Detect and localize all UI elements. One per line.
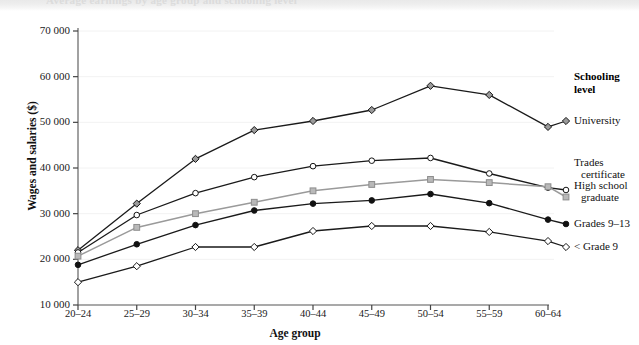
data-point-marker [309, 117, 316, 124]
series-grades-9-13 [75, 191, 569, 267]
data-point-marker [134, 241, 140, 247]
data-point-marker [133, 263, 140, 270]
data-point-marker [544, 123, 551, 130]
data-point-marker [251, 126, 258, 133]
data-point-marker [427, 222, 434, 229]
data-point-marker [486, 200, 492, 206]
data-point-marker [134, 224, 140, 230]
legend-item-label: High school [574, 180, 639, 192]
data-point-marker [486, 180, 492, 186]
chart-figure: Average earnings by age group and school… [0, 0, 639, 345]
data-point-marker [192, 243, 199, 250]
data-point-marker [486, 171, 492, 177]
legend-item: University [574, 115, 639, 127]
data-point-marker [563, 221, 569, 227]
data-point-marker [251, 199, 257, 205]
legend-item-label: University [574, 115, 639, 127]
series-high-school-graduate [75, 177, 569, 260]
legend-item-label: Trades [574, 157, 639, 169]
legend-title-line2: level [574, 83, 636, 96]
data-point-marker [368, 106, 375, 113]
data-point-marker [545, 184, 551, 190]
data-point-marker [251, 208, 257, 214]
legend-item: < Grade 9 [574, 241, 639, 253]
data-point-marker [251, 174, 257, 180]
data-point-marker [369, 198, 375, 204]
data-point-marker [75, 262, 81, 268]
data-point-marker [428, 191, 434, 197]
legend-item: Grades 9–13 [574, 218, 639, 230]
legend-item-label: Grades 9–13 [574, 218, 639, 230]
series-grade-9 [74, 222, 569, 285]
legend-item-label-cont: graduate [574, 192, 639, 204]
legend-item: High schoolgraduate [574, 180, 639, 203]
data-point-marker [563, 194, 569, 200]
data-point-marker [193, 222, 199, 228]
data-point-marker [310, 163, 316, 169]
data-point-marker [428, 155, 434, 161]
data-point-marker [428, 177, 434, 183]
data-point-marker [309, 227, 316, 234]
data-point-marker [74, 279, 81, 286]
data-point-marker [486, 91, 493, 98]
data-point-marker [544, 237, 551, 244]
data-point-marker [563, 187, 569, 193]
data-point-marker [427, 82, 434, 89]
data-point-marker [486, 228, 493, 235]
data-point-marker [310, 188, 316, 194]
plot-canvas [0, 0, 639, 345]
data-point-marker [75, 253, 81, 259]
data-point-marker [251, 243, 258, 250]
legend-title-line1: Schooling [574, 70, 636, 83]
data-point-marker [562, 243, 569, 250]
data-point-marker [369, 158, 375, 164]
legend-title: Schooling level [574, 70, 636, 95]
data-point-marker [193, 211, 199, 217]
data-point-marker [368, 222, 375, 229]
data-point-marker [310, 201, 316, 207]
data-point-marker [134, 212, 140, 218]
legend-item-label: < Grade 9 [574, 241, 639, 253]
legend-item: Tradescertificate [574, 157, 639, 180]
data-point-marker [369, 182, 375, 188]
data-point-marker [545, 217, 551, 223]
data-point-marker [193, 190, 199, 196]
data-point-marker [562, 117, 569, 124]
